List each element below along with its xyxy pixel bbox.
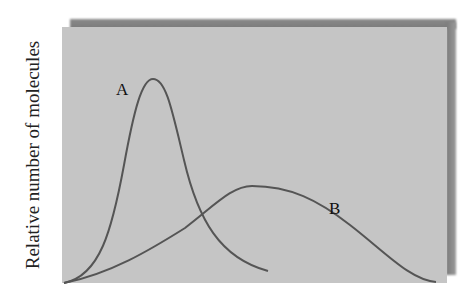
curve-b-label: B <box>329 199 340 218</box>
curve-a-label: A <box>116 80 129 99</box>
chart-svg: A B <box>0 0 476 296</box>
curve-a <box>64 79 268 283</box>
curve-b <box>64 186 436 283</box>
